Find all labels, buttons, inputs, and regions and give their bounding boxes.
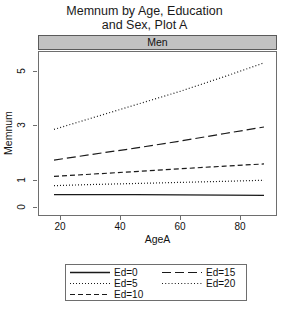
legend-label: Ed=0 xyxy=(114,268,138,278)
series-line-ed-15 xyxy=(54,127,264,160)
legend-line-key-dotted-icon xyxy=(70,279,110,288)
legend-line-key-longdash-icon xyxy=(162,268,202,277)
chart-title-line-2: and Sex, Plot A xyxy=(0,18,289,32)
series-line-ed-5 xyxy=(54,180,264,185)
legend-line-key-dotdash-icon xyxy=(162,279,202,288)
legend-column-right: Ed=15Ed=20 xyxy=(162,267,246,289)
x-tick-label: 60 xyxy=(165,221,195,232)
y-tick-mark xyxy=(33,207,37,208)
chart-title: Memnum by Age, Education and Sex, Plot A xyxy=(0,4,289,32)
legend-item[interactable]: Ed=5 xyxy=(70,278,162,289)
panel-strip-label: Men xyxy=(38,35,277,50)
chart-title-line-1: Memnum by Age, Education xyxy=(66,4,222,18)
x-tick-mark xyxy=(120,216,121,220)
legend-label: Ed=20 xyxy=(206,279,235,289)
chart-legend: Ed=0Ed=5Ed=10 Ed=15Ed=20 xyxy=(65,264,247,301)
series-line-ed-20 xyxy=(54,63,264,130)
x-tick-mark xyxy=(240,216,241,220)
legend-label: Ed=15 xyxy=(206,268,235,278)
x-tick-label: 40 xyxy=(105,221,135,232)
y-tick-label: 3 xyxy=(17,115,27,135)
plot-panel xyxy=(38,51,277,216)
y-tick-label: 5 xyxy=(17,61,27,81)
x-tick-label: 80 xyxy=(225,221,255,232)
legend-item[interactable]: Ed=10 xyxy=(70,289,162,300)
legend-label: Ed=5 xyxy=(114,279,138,289)
x-tick-mark xyxy=(180,216,181,220)
y-tick-label: 0 xyxy=(17,197,27,217)
y-tick-mark xyxy=(33,125,37,126)
legend-label: Ed=10 xyxy=(114,290,143,300)
series-line-ed-0 xyxy=(54,195,264,196)
x-axis-label: AgeA xyxy=(38,233,277,245)
chart-figure: Memnum by Age, Education and Sex, Plot A… xyxy=(0,0,289,323)
series-line-ed-10 xyxy=(54,164,264,176)
plot-lines xyxy=(39,52,276,215)
legend-line-key-dashed-icon xyxy=(70,290,110,299)
y-tick-mark xyxy=(33,71,37,72)
legend-line-key-solid-icon xyxy=(70,268,110,277)
x-tick-label: 20 xyxy=(45,221,75,232)
legend-item[interactable]: Ed=0 xyxy=(70,267,162,278)
legend-item[interactable]: Ed=15 xyxy=(162,267,246,278)
legend-column-left: Ed=0Ed=5Ed=10 xyxy=(70,267,162,300)
y-tick-mark xyxy=(33,180,37,181)
x-tick-mark xyxy=(60,216,61,220)
y-tick-label: 1 xyxy=(17,170,27,190)
legend-item[interactable]: Ed=20 xyxy=(162,278,246,289)
y-axis-label: Memnum xyxy=(2,103,14,163)
